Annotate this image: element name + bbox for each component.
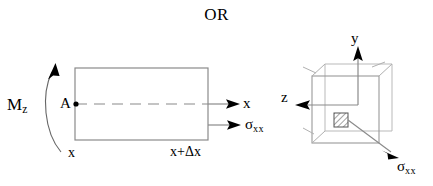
beam-right-station-label: x+Δx <box>170 145 201 159</box>
beam-stress-label-subscript: xx <box>253 123 264 134</box>
hatched-stress-element <box>334 113 348 127</box>
cube-edge-top-left <box>312 64 325 76</box>
beam-stress-label: σxx <box>245 117 264 132</box>
cube-stress-label-subscript: xx <box>405 165 416 176</box>
cube-stub-top-left <box>303 67 316 73</box>
point-a-marker <box>73 101 78 106</box>
figure-canvas: OR <box>0 0 433 186</box>
beam-left-station-label: x <box>68 146 75 160</box>
moment-label-subscript: z <box>22 103 27 116</box>
cube-front-face <box>312 76 379 143</box>
cube-edge-top-right <box>379 64 392 76</box>
figure-graphics <box>0 0 433 186</box>
beam-stress-label-base: σ <box>245 116 253 132</box>
beam-diagram <box>46 63 241 152</box>
cube-stress-line <box>348 120 391 152</box>
moment-label: Mz <box>7 96 27 113</box>
stress-cube-diagram <box>295 46 399 160</box>
cube-y-axis-label: y <box>351 31 359 46</box>
cube-stress-label-base: σ <box>397 158 405 174</box>
moment-arrowhead <box>48 63 60 80</box>
point-a-label: A <box>60 96 71 111</box>
cube-stress-label: σxx <box>397 159 416 174</box>
cube-z-axis-label: z <box>281 90 288 105</box>
cube-edge-bottom-left <box>312 131 325 143</box>
beam-x-axis-label: x <box>243 96 251 111</box>
moment-arc <box>46 72 61 152</box>
moment-label-base: M <box>7 95 22 114</box>
